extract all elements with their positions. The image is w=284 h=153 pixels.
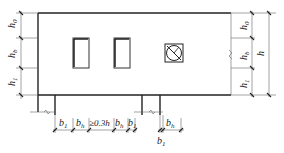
bottom-label-min-spacing: ≥0.3h bbox=[89, 118, 110, 128]
dimension-diagram: h0 hb h1 h0 hb h1 h b1 bbox=[0, 0, 284, 153]
wall-outline bbox=[38, 13, 232, 112]
bottom-label-bb: bh bbox=[115, 117, 124, 130]
right-dimension-chain: h0 hb h1 h bbox=[231, 11, 276, 97]
right-bottom-label-b1: b1 bbox=[157, 135, 166, 148]
right-bottom-dimension-chain: b1 bh bbox=[157, 115, 184, 148]
right-label-h0: h0 bbox=[238, 21, 251, 30]
duct-opening-icon bbox=[165, 44, 183, 62]
bottom-label-bh: bh bbox=[76, 117, 85, 130]
opening-rect-1 bbox=[73, 38, 89, 68]
left-label-h0: h0 bbox=[6, 19, 19, 28]
support-columns bbox=[30, 95, 163, 115]
left-label-hb: hb bbox=[6, 49, 19, 58]
bottom-label-b1: b1 bbox=[59, 117, 68, 130]
right-label-hb: hb bbox=[238, 51, 251, 60]
right-label-h1: h1 bbox=[238, 80, 251, 89]
bottom-dimension-chain: b1 bh ≥0.3h bh b1 bbox=[53, 115, 137, 133]
left-dimension-chain: h0 hb h1 bbox=[6, 11, 38, 99]
left-label-h1: h1 bbox=[6, 78, 19, 87]
right-label-h-total: h bbox=[255, 51, 266, 56]
right-bottom-label-bh: bh bbox=[166, 117, 175, 130]
opening-rect-2 bbox=[114, 38, 130, 68]
